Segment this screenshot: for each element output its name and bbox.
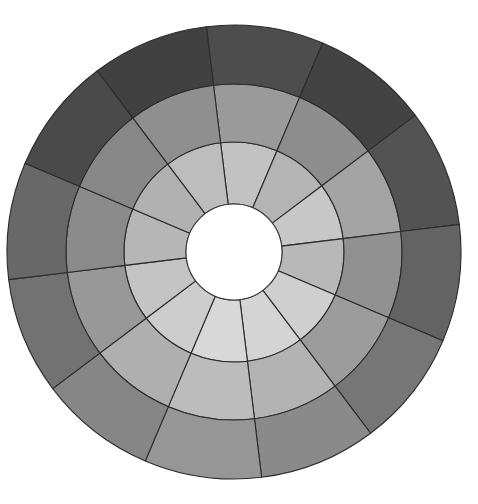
center-hole [186,204,282,300]
radial-diagram-stage [0,0,478,504]
sunburst-chart [0,0,478,504]
